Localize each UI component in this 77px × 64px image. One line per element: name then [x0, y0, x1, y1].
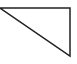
right-triangle-shape: [0, 8, 70, 56]
triangle-diagram: [0, 0, 77, 64]
diagram-canvas: [0, 0, 77, 64]
